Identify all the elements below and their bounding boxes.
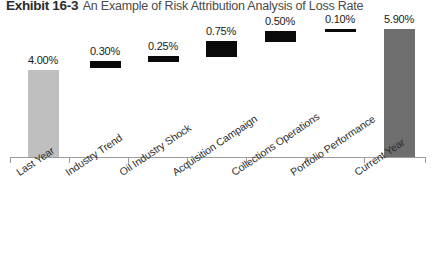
x-axis-line: [10, 157, 425, 158]
value-label: 4.00%: [17, 54, 69, 66]
x-axis-tick: [10, 157, 11, 163]
bar-acquisition-campaign: [206, 41, 237, 57]
category-label: Industry Trend: [63, 131, 124, 178]
value-label: 0.50%: [254, 15, 306, 27]
x-axis-tick: [425, 157, 426, 163]
bar-collections-operations: [265, 31, 296, 42]
bar-industry-trend: [90, 61, 121, 68]
chart-root: Exhibit 16-3 An Example of Risk Attribut…: [0, 0, 434, 264]
value-label: 0.25%: [137, 40, 189, 52]
bar-last-year: [28, 70, 59, 157]
bar-oil-industry-shock: [148, 56, 179, 62]
waterfall-plot-area: 4.00%0.30%0.25%0.75%0.50%0.10%5.90% Last…: [0, 0, 434, 264]
value-label: 5.90%: [373, 13, 425, 25]
bar-portfolio-performance: [325, 29, 356, 32]
value-label: 0.75%: [195, 25, 247, 37]
value-label: 0.10%: [314, 13, 366, 25]
value-label: 0.30%: [79, 45, 131, 57]
